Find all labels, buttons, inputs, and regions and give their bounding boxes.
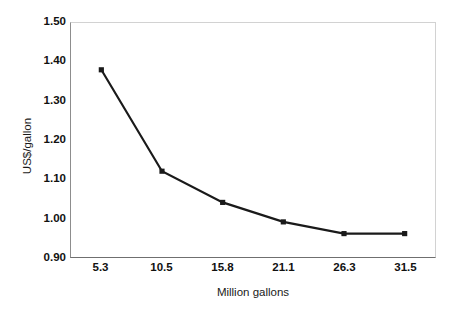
data-point-marker (402, 231, 407, 236)
x-axis-tick-label: 21.1 (254, 262, 314, 274)
series-polyline (101, 70, 404, 234)
series-markers (99, 67, 408, 236)
line-chart: US$/gallon 1.501.401.301.201.101.000.90 … (0, 0, 454, 314)
data-point-marker (341, 231, 346, 236)
x-axis-tick-labels: 5.310.515.821.126.331.5 (70, 262, 436, 282)
data-point-marker (159, 169, 164, 174)
x-axis-tick-label: 31.5 (376, 262, 436, 274)
y-axis-tick-label: 1.30 (26, 95, 66, 107)
plot-area (70, 22, 436, 258)
data-point-marker (281, 219, 286, 224)
y-axis-tick-label: 1.00 (26, 213, 66, 225)
x-axis-tick-label: 15.8 (193, 262, 253, 274)
y-axis-tick-label: 1.10 (26, 173, 66, 185)
y-axis-tick-label: 1.40 (26, 55, 66, 67)
data-series-line (71, 23, 435, 257)
y-axis-tick-labels: 1.501.401.301.201.101.000.90 (22, 0, 66, 314)
data-point-marker (220, 200, 225, 205)
x-axis-title: Million gallons (70, 286, 436, 298)
x-axis-tick-label: 5.3 (71, 262, 131, 274)
data-point-marker (99, 67, 104, 72)
x-axis-tick-label: 10.5 (132, 262, 192, 274)
x-axis-tick-label: 26.3 (315, 262, 375, 274)
y-axis-tick-label: 0.90 (26, 252, 66, 264)
y-axis-tick-label: 1.20 (26, 134, 66, 146)
y-axis-tick-label: 1.50 (26, 16, 66, 28)
